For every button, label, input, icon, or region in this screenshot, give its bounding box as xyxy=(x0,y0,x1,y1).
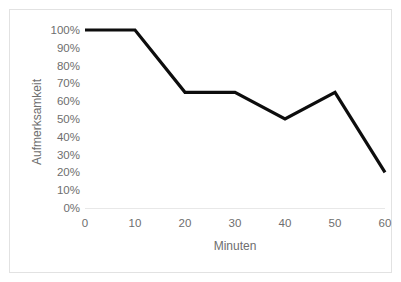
y-tick-label-20: 20% xyxy=(57,166,80,178)
x-tick-label-0: 0 xyxy=(82,217,88,229)
data-series-aufmerksamkeit xyxy=(85,30,385,172)
x-tick-label-30: 30 xyxy=(229,217,242,229)
y-tick-label-80: 80% xyxy=(57,60,80,72)
y-tick-label-60: 60% xyxy=(57,95,80,107)
y-tick-label-70: 70% xyxy=(57,77,80,89)
y-tick-label-40: 40% xyxy=(57,131,80,143)
x-tick-label-50: 50 xyxy=(329,217,342,229)
x-axis-tick-labels: 0 10 20 30 40 50 60 xyxy=(82,217,392,229)
x-tick-label-40: 40 xyxy=(279,217,292,229)
x-tick-label-10: 10 xyxy=(129,217,142,229)
chart-container: 100% 90% 80% 70% 60% 50% 40% 30% 20% 10%… xyxy=(0,0,401,282)
y-axis-tick-labels: 100% 90% 80% 70% 60% 50% 40% 30% 20% 10%… xyxy=(51,24,80,214)
y-tick-label-50: 50% xyxy=(57,113,80,125)
x-tick-label-60: 60 xyxy=(379,217,392,229)
y-axis-title: Aufmerksamkeit xyxy=(30,78,44,165)
line-chart: 100% 90% 80% 70% 60% 50% 40% 30% 20% 10%… xyxy=(0,0,401,282)
y-tick-label-10: 10% xyxy=(57,184,80,196)
x-tick-label-20: 20 xyxy=(179,217,192,229)
x-axis-title: Minuten xyxy=(214,239,257,253)
y-tick-label-30: 30% xyxy=(57,149,80,161)
y-tick-label-100: 100% xyxy=(51,24,80,36)
y-tick-label-0: 0% xyxy=(63,202,80,214)
y-tick-label-90: 90% xyxy=(57,42,80,54)
